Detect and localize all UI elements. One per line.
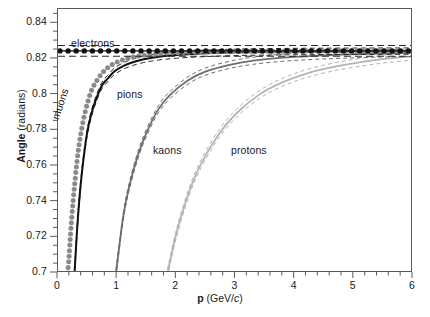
x-tick-label: 2 xyxy=(163,279,187,291)
x-tick-label: 0 xyxy=(45,279,69,291)
marker-muons xyxy=(79,126,84,131)
band-protons xyxy=(167,60,412,272)
marker-muons xyxy=(74,159,79,164)
marker-electrons xyxy=(268,48,273,53)
x-tick-label: 6 xyxy=(400,279,424,291)
marker-muons xyxy=(89,88,94,93)
marker-electrons xyxy=(292,48,297,53)
y-axis-title-bold: Angle xyxy=(15,134,27,163)
marker-muons xyxy=(73,170,78,175)
marker-muons xyxy=(101,69,106,74)
marker-electrons xyxy=(155,48,160,53)
marker-muons xyxy=(76,148,81,153)
x-tick-label: 5 xyxy=(341,279,365,291)
marker-electrons xyxy=(130,48,135,53)
marker-electrons xyxy=(90,48,95,53)
marker-electrons xyxy=(98,48,103,53)
series-layer xyxy=(58,46,412,272)
series-label-protons: protons xyxy=(231,144,267,156)
marker-muons xyxy=(70,209,75,214)
marker-electrons xyxy=(260,48,265,53)
marker-muons xyxy=(75,153,80,158)
marker-muons xyxy=(72,187,77,192)
marker-electrons xyxy=(203,48,208,53)
marker-electrons xyxy=(365,48,370,53)
marker-muons xyxy=(67,243,72,248)
marker-electrons xyxy=(211,48,216,53)
marker-electrons xyxy=(122,48,127,53)
marker-electrons xyxy=(58,48,63,53)
x-axis-title-close: ) xyxy=(239,292,243,304)
band-protons xyxy=(167,52,412,269)
marker-muons xyxy=(69,215,74,220)
marker-muons xyxy=(71,198,76,203)
series-label-electrons: electrons xyxy=(71,37,115,49)
marker-muons xyxy=(91,83,96,88)
marker-muons xyxy=(73,176,78,181)
curve-pions xyxy=(75,51,412,272)
marker-electrons xyxy=(195,48,200,53)
marker-electrons xyxy=(317,48,322,53)
y-tick-marks xyxy=(50,13,57,272)
marker-electrons xyxy=(244,48,249,53)
marker-electrons xyxy=(398,48,403,53)
marker-electrons xyxy=(389,48,394,53)
marker-electrons xyxy=(65,48,70,53)
marker-muons xyxy=(80,120,85,125)
marker-muons xyxy=(131,55,136,60)
marker-muons xyxy=(71,192,76,197)
marker-muons xyxy=(83,109,88,114)
marker-electrons xyxy=(357,48,362,53)
y-tick-label: 0.74 xyxy=(5,194,47,206)
band-pions xyxy=(75,54,412,272)
marker-electrons xyxy=(106,48,111,53)
marker-muons xyxy=(98,73,103,78)
marker-electrons xyxy=(187,48,192,53)
marker-electrons xyxy=(349,48,354,53)
series-label-kaons: kaons xyxy=(153,144,182,156)
x-axis-title: p (GeV/c) xyxy=(150,292,290,304)
marker-muons xyxy=(94,78,99,83)
marker-electrons xyxy=(179,48,184,53)
marker-electrons xyxy=(219,48,224,53)
marker-muons xyxy=(74,164,79,169)
marker-electrons xyxy=(252,48,257,53)
marker-electrons xyxy=(163,48,168,53)
marker-electrons xyxy=(171,48,176,53)
band-pions xyxy=(75,48,412,270)
marker-muons xyxy=(69,220,74,225)
x-tick-label: 3 xyxy=(223,279,247,291)
y-tick-label: 0.7 xyxy=(5,265,47,277)
x-tick-label: 4 xyxy=(282,279,306,291)
marker-muons xyxy=(120,57,125,62)
marker-electrons xyxy=(333,48,338,53)
marker-electrons xyxy=(114,48,119,53)
curve-protons xyxy=(167,56,412,272)
marker-electrons xyxy=(138,48,143,53)
series-label-pions: pions xyxy=(117,88,143,100)
marker-electrons xyxy=(82,48,87,53)
marker-muons xyxy=(110,62,115,67)
marker-electrons xyxy=(300,48,305,53)
y-axis-title: Angle (radians) xyxy=(15,61,27,191)
marker-electrons xyxy=(325,48,330,53)
marker-muons xyxy=(65,271,70,273)
marker-muons xyxy=(86,98,91,103)
x-tick-marks xyxy=(57,272,412,278)
marker-electrons xyxy=(227,48,232,53)
marker-electrons xyxy=(276,48,281,53)
band-kaons xyxy=(116,56,412,272)
marker-muons xyxy=(77,142,82,147)
marker-electrons xyxy=(406,48,411,53)
marker-electrons xyxy=(373,48,378,53)
marker-muons xyxy=(67,254,72,259)
marker-muons xyxy=(67,248,72,253)
cherenkov-angle-figure: 0.70.720.740.760.780.80.820.84 0123456 A… xyxy=(0,0,430,317)
marker-electrons xyxy=(146,48,151,53)
marker-muons xyxy=(77,137,82,142)
marker-muons xyxy=(70,204,75,209)
marker-electrons xyxy=(341,48,346,53)
y-axis-title-rest: (radians) xyxy=(15,89,27,133)
band-kaons xyxy=(116,49,412,269)
marker-electrons xyxy=(284,48,289,53)
